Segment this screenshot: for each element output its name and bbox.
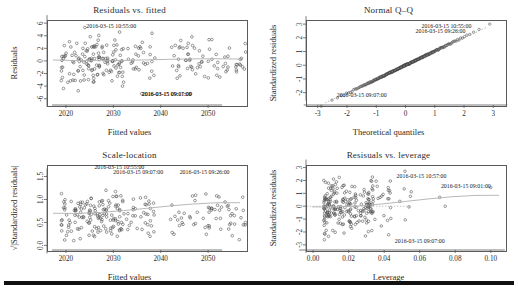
svg-text:2016-03-15 09:07:00: 2016-03-15 09:07:00: [337, 92, 387, 98]
svg-text:-3: -3: [296, 241, 304, 247]
x-axis-label: Theoretical quantiles: [259, 127, 518, 137]
scatter-points: 0.000.020.040.060.080.103210-1-2-32016-0…: [259, 145, 518, 290]
svg-text:2016-03-15 09:26:00: 2016-03-15 09:26:00: [180, 169, 230, 175]
svg-text:0.02: 0.02: [342, 255, 355, 263]
panel-scale-location: Scale-location √|Standardized residuals|…: [0, 145, 259, 290]
svg-text:3: 3: [491, 110, 495, 118]
svg-text:3: 3: [296, 22, 304, 26]
svg-text:1.0: 1.0: [37, 195, 45, 204]
figure-sheet: Residuals vs. fitted Residuals 202020302…: [0, 0, 518, 291]
svg-text:-3: -3: [315, 110, 321, 118]
svg-text:-2: -2: [296, 89, 304, 95]
svg-text:2016-03-15 09:07:00: 2016-03-15 09:07:00: [395, 238, 445, 244]
svg-text:0.5: 0.5: [37, 218, 45, 227]
svg-text:0: 0: [37, 59, 45, 63]
svg-text:-2: -2: [37, 70, 45, 76]
panel-normal-qq: Normal Q–Q Standardized residuals -3-2-1…: [259, 0, 518, 145]
svg-text:-2: -2: [344, 110, 350, 118]
x-axis-label: Fitted values: [0, 127, 259, 137]
svg-text:1: 1: [296, 49, 304, 53]
svg-text:1: 1: [296, 191, 304, 195]
svg-text:2: 2: [462, 110, 466, 118]
svg-text:0.0: 0.0: [37, 241, 45, 250]
svg-text:2: 2: [296, 36, 304, 40]
scatter-points: -3-2-101233210-1-22016-03-15 10:55:00201…: [259, 0, 518, 145]
svg-text:-1: -1: [296, 76, 304, 82]
svg-text:1: 1: [433, 110, 437, 118]
svg-text:0.00: 0.00: [307, 255, 320, 263]
svg-text:0.08: 0.08: [449, 255, 462, 263]
svg-text:-1: -1: [296, 216, 304, 222]
svg-text:0: 0: [404, 110, 408, 118]
svg-text:-1: -1: [373, 110, 379, 118]
svg-text:2: 2: [37, 46, 45, 50]
svg-text:2050: 2050: [201, 255, 216, 263]
svg-text:3: 3: [296, 165, 304, 169]
svg-text:2020: 2020: [59, 110, 74, 118]
svg-text:2050: 2050: [201, 110, 216, 118]
svg-text:0: 0: [296, 204, 304, 208]
svg-text:4: 4: [37, 34, 45, 38]
svg-text:2016-03-15 09:01:00: 2016-03-15 09:01:00: [441, 183, 491, 189]
svg-text:0.06: 0.06: [413, 255, 426, 263]
svg-text:2030: 2030: [106, 255, 121, 263]
svg-text:2016-03-15 09:26:00: 2016-03-15 09:26:00: [416, 28, 466, 34]
svg-text:0.04: 0.04: [378, 255, 391, 263]
svg-text:2040: 2040: [154, 110, 169, 118]
svg-text:0: 0: [296, 63, 304, 67]
svg-text:1.5: 1.5: [37, 172, 45, 181]
page-rule: [4, 281, 514, 284]
svg-text:2016-03-15 09:07:00: 2016-03-15 09:07:00: [113, 169, 163, 175]
svg-text:2020: 2020: [59, 255, 74, 263]
svg-text:-6: -6: [37, 95, 45, 101]
panel-residuals-vs-leverage: Resisuals vs. leverage Standardized resi…: [259, 145, 518, 290]
svg-text:-4: -4: [37, 83, 45, 89]
svg-text:2040: 2040: [154, 255, 169, 263]
panel-residuals-vs-fitted: Residuals vs. fitted Residuals 202020302…: [0, 0, 259, 145]
svg-text:2016-03-15 10:57:00: 2016-03-15 10:57:00: [397, 173, 447, 179]
svg-text:2030: 2030: [106, 110, 121, 118]
svg-text:0.10: 0.10: [484, 255, 497, 263]
scatter-points: 20202030204020501.51.00.50.02016-03-15 1…: [0, 145, 259, 290]
svg-text:2016-03-15 10:55:00: 2016-03-15 10:55:00: [86, 23, 136, 29]
svg-text:2: 2: [296, 178, 304, 182]
svg-text:-2: -2: [296, 229, 304, 235]
svg-text:2016-03-15 09:11:00: 2016-03-15 09:11:00: [142, 91, 192, 97]
scatter-points: 20202030204020506420-2-4-62016-03-15 10:…: [0, 0, 259, 145]
svg-text:6: 6: [37, 21, 45, 25]
